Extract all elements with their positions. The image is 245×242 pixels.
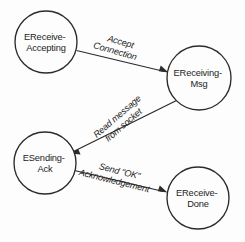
node-esending-ack-label-line2: Ack bbox=[37, 164, 53, 174]
edge-send-ok-ack-label: Send "OK" Acknowledgement bbox=[77, 157, 153, 195]
node-ereceive-done-label-line1: EReceive- bbox=[176, 188, 218, 198]
node-ereceiving-msg-label-line1: EReceiving- bbox=[174, 68, 223, 78]
node-ereceiving-msg[interactable]: EReceiving- Msg bbox=[167, 46, 231, 110]
edge-accept-connection-label: Accept Connection bbox=[92, 30, 141, 62]
edge-accept-connection: Accept Connection bbox=[77, 30, 169, 72]
edge-send-ok-ack: Send "OK" Acknowledgement bbox=[75, 157, 168, 195]
diagram-canvas: Accept Connection Read message from sock… bbox=[0, 0, 245, 242]
node-ereceive-accepting-label-line1: EReceive- bbox=[24, 32, 66, 42]
edge-read-message-label: Read message from socket bbox=[91, 92, 151, 148]
node-ereceiving-msg-circle[interactable] bbox=[167, 46, 231, 110]
node-ereceive-done-label-line2: Done bbox=[187, 199, 209, 209]
state-diagram: Accept Connection Read message from sock… bbox=[0, 0, 245, 242]
edge-send-ok-ack-arrowhead bbox=[158, 186, 168, 193]
node-esending-ack-circle[interactable] bbox=[14, 132, 76, 194]
node-ereceive-accepting-circle[interactable] bbox=[15, 11, 77, 73]
node-esending-ack-label-line1: ESending- bbox=[23, 153, 65, 163]
node-ereceive-accepting-label-line2: Accepting bbox=[26, 43, 65, 53]
node-ereceiving-msg-label-line2: Msg bbox=[190, 79, 207, 89]
node-ereceive-accepting[interactable]: EReceive- Accepting bbox=[15, 11, 77, 73]
node-esending-ack[interactable]: ESending- Ack bbox=[14, 132, 76, 194]
node-ereceive-done[interactable]: EReceive- Done bbox=[167, 167, 229, 229]
node-ereceive-done-circle[interactable] bbox=[167, 167, 229, 229]
node-ereceive-accepting-label: EReceive- Accepting bbox=[24, 32, 68, 53]
edge-read-message: Read message from socket bbox=[70, 92, 177, 155]
